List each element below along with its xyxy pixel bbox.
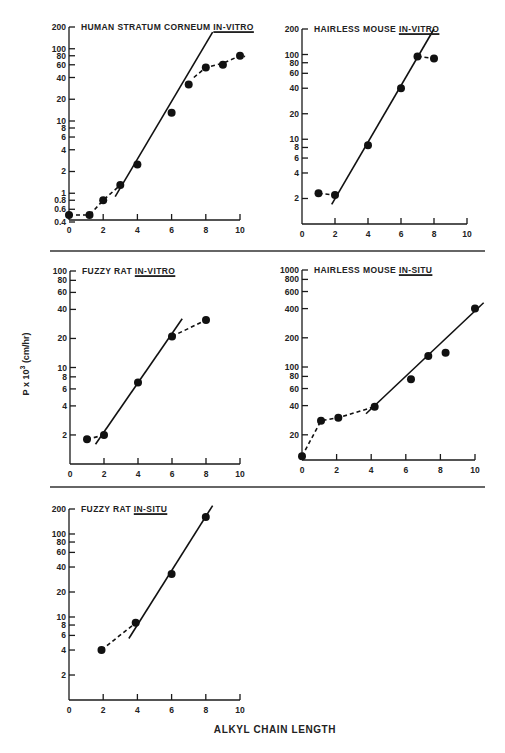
y-tick-label: 6 (61, 630, 66, 640)
data-point (65, 211, 73, 219)
data-point (86, 211, 94, 219)
y-axis-label-base: P x 10 (21, 370, 31, 396)
x-tick-label: 8 (438, 465, 443, 475)
y-tick-label: 20 (290, 109, 300, 119)
x-tick-label: 2 (101, 225, 106, 235)
x-tick-label: 2 (102, 469, 107, 479)
y-tick-label: 2 (294, 193, 299, 203)
chart-panel-5: 246810204060801002000246810FUZZY RAT IN-… (52, 504, 245, 715)
panel-title-condition: IN-SITU (399, 265, 433, 275)
dashed-trend-line (172, 320, 206, 336)
y-tick-label: 6 (62, 384, 67, 394)
x-tick-label: 6 (399, 229, 404, 239)
x-tick-label: 8 (204, 469, 209, 479)
y-tick-label: 1000 (280, 265, 299, 275)
y-tick-label: 6 (294, 153, 299, 163)
x-tick-label: 0 (68, 469, 73, 479)
data-point (424, 352, 432, 360)
x-tick-label: 4 (135, 225, 140, 235)
panel-title-condition: IN-SITU (134, 504, 168, 514)
y-tick-label: 80 (290, 371, 300, 381)
y-tick-label: 20 (290, 430, 300, 440)
panel-title: FUZZY RAT IN-SITU (81, 504, 167, 514)
data-point (168, 109, 176, 117)
panel-title-condition: IN-VITRO (213, 22, 254, 32)
y-tick-label: 200 (285, 333, 299, 343)
y-tick-label: 60 (57, 547, 67, 557)
y-tick-label: 60 (57, 60, 67, 70)
y-tick-label: 10 (57, 612, 67, 622)
panel-title-subject: HAIRLESS MOUSE (314, 24, 399, 34)
y-tick-label: 40 (290, 83, 300, 93)
data-point (317, 417, 325, 425)
chart-panel-2: 246810204060801002000246810HAIRLESS MOUS… (285, 24, 472, 239)
panel-title-subject: FUZZY RAT (82, 266, 135, 276)
y-axis-label: P x 103 (cm/hr) (19, 309, 31, 419)
data-point (430, 54, 438, 62)
data-point (315, 189, 323, 197)
y-tick-label: 1 (61, 188, 66, 198)
y-tick-label: 200 (285, 24, 299, 34)
y-tick-label: 2 (61, 670, 66, 680)
y-tick-label: 100 (52, 44, 66, 54)
y-axis-label-unit: (cm/hr) (21, 333, 31, 366)
x-tick-label: 8 (432, 229, 437, 239)
chart-panel-4: 2040608010020040060080010000246810HAIRLE… (280, 265, 484, 475)
data-point (331, 191, 339, 199)
y-tick-label: 100 (285, 362, 299, 372)
data-point (133, 160, 141, 168)
x-tick-label: 4 (369, 465, 374, 475)
data-point (334, 414, 342, 422)
y-tick-label: 60 (290, 384, 300, 394)
panel-title-condition: IN-VITRO (135, 266, 176, 276)
regression-line (115, 32, 212, 196)
data-point (97, 646, 105, 654)
x-tick-label: 8 (203, 225, 208, 235)
y-tick-label: 6 (61, 132, 66, 142)
y-tick-label: 20 (57, 94, 67, 104)
data-point (132, 619, 140, 627)
data-point (364, 141, 372, 149)
x-tick-label: 0 (300, 229, 305, 239)
data-point (407, 375, 415, 383)
x-tick-label: 0 (300, 465, 305, 475)
y-tick-label: 4 (61, 145, 66, 155)
data-point (471, 305, 479, 313)
y-tick-label: 4 (62, 401, 67, 411)
x-tick-label: 10 (462, 229, 472, 239)
data-point (371, 403, 379, 411)
y-tick-label: 60 (58, 287, 68, 297)
data-point (116, 181, 124, 189)
panel-title: HUMAN STRATUM CORNEUM IN-VITRO (81, 22, 254, 32)
x-tick-label: 2 (334, 465, 339, 475)
data-point (442, 349, 450, 357)
chart-panel-3: 246810204060801000246810FUZZY RAT IN-VIT… (53, 266, 245, 479)
y-tick-label: 0.6 (54, 204, 66, 214)
data-point (236, 52, 244, 60)
data-point (397, 84, 405, 92)
x-tick-label: 10 (235, 225, 245, 235)
data-point (134, 378, 142, 386)
panel-title-subject: FUZZY RAT (81, 504, 134, 514)
y-tick-label: 40 (58, 304, 68, 314)
y-tick-label: 100 (53, 266, 67, 276)
chart-panel-1: 0.40.60.81246810204060801002000246810HUM… (52, 22, 254, 235)
x-tick-label: 4 (135, 705, 140, 715)
y-tick-label: 60 (290, 68, 300, 78)
data-point (168, 332, 176, 340)
data-point (100, 431, 108, 439)
y-tick-label: 800 (285, 274, 299, 284)
y-tick-label: 10 (290, 134, 300, 144)
y-tick-label: 10 (57, 116, 67, 126)
x-tick-label: 10 (235, 469, 245, 479)
x-tick-label: 4 (136, 469, 141, 479)
data-point (83, 435, 91, 443)
y-tick-label: 600 (285, 287, 299, 297)
y-tick-label: 100 (285, 50, 299, 60)
data-point (298, 452, 306, 460)
y-axis-label-exponent: 3 (19, 366, 26, 370)
data-point (168, 570, 176, 578)
x-tick-label: 6 (169, 225, 174, 235)
y-tick-label: 40 (57, 73, 67, 83)
figure-canvas: 0.40.60.81246810204060801002000246810HUM… (0, 0, 505, 753)
